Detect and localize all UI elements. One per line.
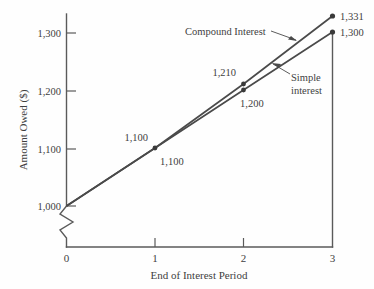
interest-growth-line-chart: 1,300 1,200 1,100 1,000 Amount Owed ($) … — [0, 0, 374, 289]
x-tick-label-3: 3 — [330, 252, 336, 264]
data-label-simple-year2: 1,200 — [240, 98, 264, 109]
y-tick-label-1300: 1,300 — [37, 28, 61, 39]
data-label-compound-year3: 1,331 — [340, 11, 364, 22]
x-tick-label-0: 0 — [64, 252, 70, 264]
data-point-simple-year3 — [330, 29, 335, 34]
y-axis-title: Amount Owed ($) — [17, 89, 30, 170]
data-point-compound-year3 — [330, 13, 335, 18]
x-axis-title: End of Interest Period — [151, 269, 248, 281]
x-tick-label-1: 1 — [152, 252, 158, 264]
y-tick-label-1000: 1,000 — [37, 201, 61, 212]
x-axis — [67, 32, 333, 247]
data-point-compound-year2 — [241, 82, 246, 87]
compound-interest-annotation-label: Compound Interest — [185, 26, 266, 37]
y-tick-label-1100: 1,100 — [37, 144, 61, 155]
data-label-year1-upper: 1,100 — [124, 132, 148, 143]
simple-interest-annotation-line1: Simple — [291, 72, 321, 83]
simple-interest-annotation-line2: interest — [291, 85, 322, 96]
data-point-year1 — [153, 146, 158, 151]
y-axis — [60, 14, 76, 247]
data-label-simple-year3: 1,300 — [340, 27, 364, 38]
data-label-compound-year2: 1,210 — [212, 67, 236, 78]
data-point-simple-year2 — [241, 88, 246, 93]
x-tick-label-2: 2 — [241, 252, 247, 264]
y-tick-label-1200: 1,200 — [37, 86, 61, 97]
chart-figure: 1,300 1,200 1,100 1,000 Amount Owed ($) … — [0, 0, 374, 289]
y-axis-break-zigzag — [60, 206, 73, 247]
compound-interest-line — [67, 16, 333, 206]
compound-interest-arrowhead — [288, 36, 297, 41]
data-label-year1-lower: 1,100 — [160, 156, 184, 167]
